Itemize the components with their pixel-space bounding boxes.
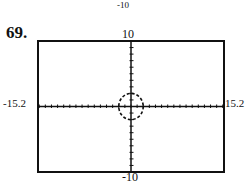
graph-window (0, 0, 248, 181)
